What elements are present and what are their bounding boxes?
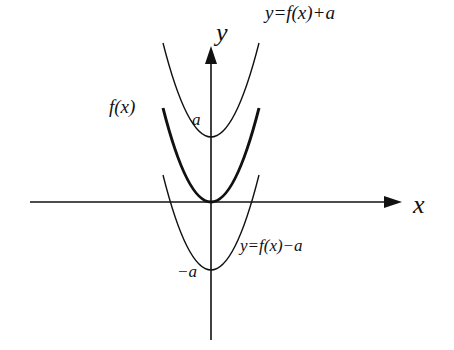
- y-axis-arrow-icon: [205, 46, 217, 64]
- y-axis-label: y: [216, 18, 228, 48]
- tick-label-a: a: [192, 110, 201, 130]
- label-shift-up: y=f(x)+a: [265, 2, 335, 24]
- x-axis-label: x: [413, 190, 425, 220]
- label-shift-down: y=f(x)−a: [240, 236, 303, 256]
- x-axis-arrow-icon: [384, 196, 402, 208]
- diagram-canvas: y x y=f(x)+a f(x) y=f(x)−a a −a: [0, 0, 454, 350]
- label-original: f(x): [109, 96, 135, 118]
- diagram-graphics: [0, 0, 454, 350]
- tick-label-minus-a: −a: [177, 262, 197, 282]
- y-axis: [205, 46, 217, 340]
